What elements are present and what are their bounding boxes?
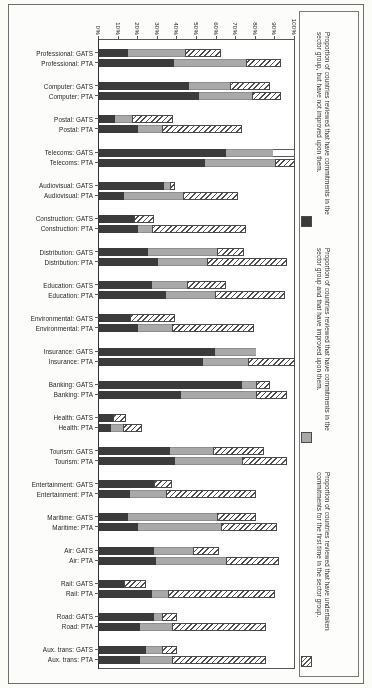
bar-segment-first-time <box>172 623 266 631</box>
value-tick-label: 10% <box>115 22 122 35</box>
bar-segment-improved <box>164 182 170 190</box>
bar-segment-first-time <box>172 324 254 332</box>
bar-professional-gats <box>99 49 221 57</box>
value-tick-label: 30% <box>154 22 161 35</box>
bar-segment-first-time <box>193 547 218 555</box>
bar-banking-gats <box>99 381 270 389</box>
bar-segment-first-time <box>132 115 173 123</box>
bar-segment-not-improved <box>99 447 170 455</box>
bar-segment-not-improved <box>99 414 113 422</box>
value-tick <box>176 36 177 39</box>
bar-postal-gats <box>99 115 173 123</box>
category-tick <box>95 593 99 594</box>
bar-segment-not-improved <box>99 92 199 100</box>
bar-segment-not-improved <box>99 248 148 256</box>
value-axis: 100%90%80%70%60%50%40%30%20%10%0% <box>99 13 295 39</box>
category-tick <box>95 384 99 385</box>
category-label: Health: GATS <box>53 414 93 422</box>
bar-insurance-pta <box>99 358 295 366</box>
category-tick <box>95 550 99 551</box>
legend-item-2: Proportion of countries reviewed that ha… <box>298 32 358 228</box>
bar-segment-not-improved <box>99 291 166 299</box>
category-label: Insurance: PTA <box>49 358 93 366</box>
bar-telecoms-gats <box>99 149 295 157</box>
bar-segment-improved <box>166 291 215 299</box>
bar-segment-not-improved <box>99 281 152 289</box>
bar-segment-first-time <box>248 358 295 366</box>
chart-legend: Proportion of countries reviewed that ha… <box>299 11 359 677</box>
category-label: Education: GATS <box>43 282 93 290</box>
bar-health-gats <box>99 414 126 422</box>
bar-segment-blank <box>273 149 295 157</box>
bar-postal-pta <box>99 125 242 133</box>
category-label: Postal: GATS <box>54 116 93 124</box>
category-tick <box>95 228 99 229</box>
bar-segment-first-time <box>213 447 264 455</box>
category-label: Maritime: GATS <box>47 514 93 522</box>
bar-segment-improved <box>138 125 162 133</box>
category-tick <box>95 52 99 53</box>
scan-frame: Proportion of countries reviewed that ha… <box>8 4 364 684</box>
bar-segment-first-time <box>221 523 278 531</box>
bar-segment-not-improved <box>99 59 173 67</box>
bar-segment-improved <box>125 192 184 200</box>
bar-entertainment-pta <box>99 490 256 498</box>
bar-segment-first-time <box>152 225 246 233</box>
bar-segment-first-time <box>170 182 176 190</box>
bar-segment-not-improved <box>99 457 175 465</box>
category-label: Computer: GATS <box>44 83 93 91</box>
bar-segment-improved <box>140 656 171 664</box>
category-label: Rail: GATS <box>61 580 93 588</box>
bar-segment-not-improved <box>99 557 156 565</box>
bar-segment-improved <box>199 92 252 100</box>
bar-segment-not-improved <box>99 324 138 332</box>
bar-segment-first-time <box>185 49 220 57</box>
legend-swatch-dark-icon <box>301 216 312 227</box>
bar-education-gats <box>99 281 226 289</box>
bar-segment-first-time <box>275 159 295 167</box>
bar-segment-not-improved <box>99 149 226 157</box>
value-tick <box>255 36 256 39</box>
bar-segment-first-time <box>134 215 154 223</box>
bar-segment-not-improved <box>99 182 164 190</box>
category-label: Professional: GATS <box>36 50 93 58</box>
bar-segment-improved <box>170 447 213 455</box>
bar-segment-first-time <box>125 580 147 588</box>
bar-segment-first-time <box>172 656 266 664</box>
bar-segment-not-improved <box>99 358 203 366</box>
category-tick <box>95 284 99 285</box>
category-label: Tourism: PTA <box>54 458 93 466</box>
bar-segment-not-improved <box>99 580 124 588</box>
bar-segment-improved <box>128 513 216 521</box>
bar-segment-not-improved <box>99 115 115 123</box>
bar-construction-gats <box>99 215 154 223</box>
bar-segment-first-time <box>217 248 244 256</box>
bar-segment-first-time <box>207 258 287 266</box>
bar-entertainment-gats <box>99 480 172 488</box>
category-tick <box>95 261 99 262</box>
value-tick-label: 60% <box>213 22 220 35</box>
category-tick <box>95 659 99 660</box>
category-label: Environmental: PTA <box>36 325 93 333</box>
bar-segment-improved <box>215 348 256 356</box>
category-label: Construction: PTA <box>41 225 93 233</box>
bar-segment-first-time <box>168 590 276 598</box>
category-label: Banking: PTA <box>54 391 93 399</box>
bar-professional-pta <box>99 59 281 67</box>
legend-swatch-hatched-icon <box>301 656 312 667</box>
bar-segment-first-time <box>162 646 178 654</box>
category-label: Construction: GATS <box>36 215 93 223</box>
bar-health-pta <box>99 424 142 432</box>
rotated-figure: Proportion of countries reviewed that ha… <box>9 5 363 683</box>
bar-computer-gats <box>99 82 270 90</box>
chart-panel: Aux. trans: PTAAux. trans: GATSRoad: PTA… <box>13 11 295 677</box>
bar-tourism-gats <box>99 447 264 455</box>
bar-segment-improved <box>138 324 171 332</box>
bar-segment-not-improved <box>99 258 158 266</box>
value-tick-label: 50% <box>193 22 200 35</box>
bar-education-pta <box>99 291 285 299</box>
category-label: Audiovisual: GATS <box>39 182 93 190</box>
bar-segment-not-improved <box>99 623 140 631</box>
category-tick <box>95 493 99 494</box>
bar-segment-not-improved <box>99 613 154 621</box>
